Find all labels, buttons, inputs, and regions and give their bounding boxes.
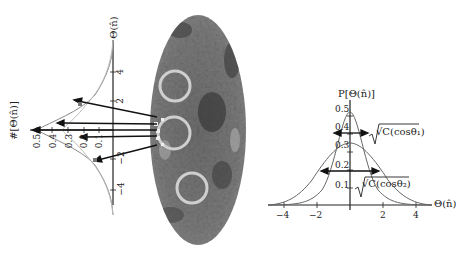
- right-ytick-1: 0.4: [335, 122, 349, 132]
- right-xtick-2: 2: [380, 210, 386, 220]
- right-x-axis-label: Θ(n̂): [434, 198, 456, 209]
- right-ytick-0: 0.5: [335, 104, 349, 114]
- right-y-axis-label: P[Θ(n̂)]: [338, 88, 375, 99]
- annotation-sigma-2: √C(cosθ₂): [362, 178, 411, 189]
- right-xtick-0: −4: [276, 210, 289, 220]
- annotation-sigma-1: √C(cosθ₁): [376, 126, 425, 137]
- right-xtick-1: −2: [309, 210, 322, 220]
- right-ytick-3: 0.2: [335, 160, 349, 170]
- right-ytick-2: 0.3: [335, 140, 349, 150]
- right-xtick-3: 4: [413, 210, 419, 220]
- right-ytick-4: 0.1: [335, 180, 349, 190]
